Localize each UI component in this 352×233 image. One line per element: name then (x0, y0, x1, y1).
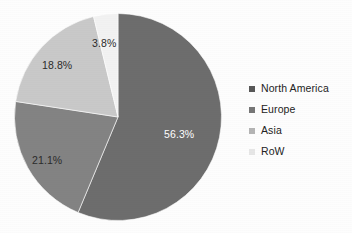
pie-chart-figure: 56.3% 21.1% 18.8% 3.8% North America Eur… (0, 0, 352, 233)
legend-item-row[interactable]: RoW (249, 141, 349, 162)
legend-label: North America (261, 83, 329, 94)
pie-chart-svg (14, 13, 222, 221)
legend-swatch-icon (249, 86, 255, 92)
pie-label-north-america: 56.3% (164, 129, 194, 140)
legend-item-europe[interactable]: Europe (249, 99, 349, 120)
pie-label-row: 3.8% (92, 38, 116, 49)
pie-label-europe: 21.1% (32, 155, 62, 166)
pie-label-asia: 18.8% (42, 60, 72, 71)
chart-legend: North America Europe Asia RoW (249, 78, 349, 162)
legend-swatch-icon (249, 107, 255, 113)
pie-slices (14, 14, 221, 221)
legend-item-asia[interactable]: Asia (249, 120, 349, 141)
legend-swatch-icon (249, 128, 255, 134)
legend-item-north-america[interactable]: North America (249, 78, 349, 99)
legend-label: RoW (261, 146, 285, 157)
pie-chart: 56.3% 21.1% 18.8% 3.8% (14, 13, 222, 221)
legend-label: Europe (261, 104, 295, 115)
legend-swatch-icon (249, 149, 255, 155)
legend-label: Asia (261, 125, 282, 136)
